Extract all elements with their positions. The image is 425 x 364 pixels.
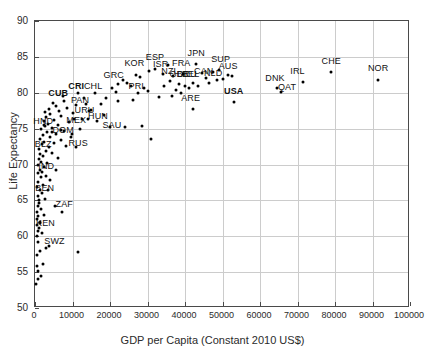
x-tick xyxy=(35,302,36,306)
point-label-qat: QAT xyxy=(278,82,296,92)
data-point xyxy=(146,89,149,92)
data-point xyxy=(140,124,143,127)
y-gridline xyxy=(35,93,408,94)
point-label-are: ARE xyxy=(181,93,200,103)
x-tick xyxy=(148,302,149,306)
y-tick xyxy=(35,129,39,130)
data-point xyxy=(40,232,43,235)
data-point xyxy=(37,278,40,281)
data-point xyxy=(116,100,119,103)
point-label-usa: USA xyxy=(224,86,243,96)
data-point xyxy=(42,213,45,216)
x-tick xyxy=(223,302,224,306)
data-point xyxy=(52,101,55,104)
data-point-grc xyxy=(116,83,119,86)
point-label-kor: KOR xyxy=(124,58,144,68)
data-point xyxy=(48,107,51,110)
data-point xyxy=(45,247,48,250)
data-point xyxy=(42,154,45,157)
data-point xyxy=(49,179,52,182)
point-label-esp: ESP xyxy=(146,52,164,62)
x-tick xyxy=(373,302,374,306)
point-label-blz: BLZ xyxy=(35,139,52,149)
y-tick-label: 65 xyxy=(2,194,28,205)
x-tick-label: 80000 xyxy=(321,310,346,320)
data-point xyxy=(51,152,54,155)
point-label-jpn: JPN xyxy=(188,48,205,58)
data-point xyxy=(38,249,41,252)
y-gridline xyxy=(35,165,408,166)
point-label-swz: SWZ xyxy=(44,236,64,246)
data-point xyxy=(230,75,233,78)
data-point xyxy=(57,157,60,160)
data-point xyxy=(35,283,38,286)
data-point-aus xyxy=(227,73,230,76)
data-point xyxy=(64,144,67,147)
data-point xyxy=(187,87,190,90)
data-point-esp xyxy=(154,68,157,71)
y-tick-label: 60 xyxy=(2,230,28,241)
data-point-fra xyxy=(182,73,185,76)
data-point-bel xyxy=(191,81,194,84)
data-point xyxy=(37,215,40,218)
point-label-irl: IRL xyxy=(290,66,304,76)
data-point-deu xyxy=(184,84,187,87)
data-point xyxy=(44,174,47,177)
point-label-cub: CUB xyxy=(48,88,68,98)
y-tick-label: 75 xyxy=(2,122,28,133)
x-tick xyxy=(185,302,186,306)
point-label-cri: CRI xyxy=(68,81,84,91)
data-point xyxy=(124,126,127,129)
x-tick-label: 10000 xyxy=(59,310,84,320)
point-label-hnd: HND xyxy=(33,116,53,126)
y-tick-label: 55 xyxy=(2,266,28,277)
data-point xyxy=(131,98,134,101)
x-tick-label: 20000 xyxy=(96,310,121,320)
point-label-grc: GRC xyxy=(104,70,124,80)
data-point xyxy=(170,94,173,97)
plot-area: NORCHEIRLDNKQATUSASUPAUSNLDCANJPNBELDEUG… xyxy=(34,20,409,307)
y-tick xyxy=(35,57,39,58)
y-tick-label: 80 xyxy=(2,86,28,97)
x-tick-label: 70000 xyxy=(284,310,309,320)
data-point xyxy=(41,134,44,137)
data-point xyxy=(197,84,200,87)
data-point xyxy=(77,251,80,254)
data-point xyxy=(36,195,39,198)
data-point-nzl xyxy=(169,79,172,82)
data-point xyxy=(99,103,102,106)
data-point-zaf xyxy=(61,210,64,213)
x-tick-label: 100000 xyxy=(394,310,424,320)
data-point xyxy=(36,253,39,256)
data-point xyxy=(163,85,166,88)
data-point xyxy=(45,131,48,134)
data-point xyxy=(139,75,142,78)
point-label-sau: SAU xyxy=(102,120,121,130)
x-tick-label: 0 xyxy=(31,310,36,320)
x-gridline xyxy=(260,21,261,306)
data-point-usa xyxy=(232,101,235,104)
y-gridline xyxy=(35,129,408,130)
data-point-pri xyxy=(137,91,140,94)
y-tick xyxy=(35,93,39,94)
data-point xyxy=(221,78,224,81)
y-tick-label: 50 xyxy=(2,302,28,313)
point-label-ken: KEN xyxy=(36,218,55,228)
x-tick-label: 90000 xyxy=(359,310,384,320)
point-label-ben: BEN xyxy=(35,183,54,193)
data-point xyxy=(174,88,177,91)
data-point-chl xyxy=(94,91,97,94)
data-point xyxy=(36,229,39,232)
x-tick xyxy=(73,302,74,306)
data-point xyxy=(37,240,40,243)
y-tick xyxy=(35,308,39,309)
x-tick-label: 40000 xyxy=(171,310,196,320)
y-tick-label: 85 xyxy=(2,50,28,61)
data-point-blz xyxy=(50,131,53,134)
point-label-pan: PAN xyxy=(71,95,89,105)
point-label-chl: CHL xyxy=(84,81,102,91)
data-point-gbr xyxy=(178,83,181,86)
data-point xyxy=(44,149,47,152)
point-label-rus: RUS xyxy=(68,138,87,148)
y-gridline xyxy=(35,272,408,273)
